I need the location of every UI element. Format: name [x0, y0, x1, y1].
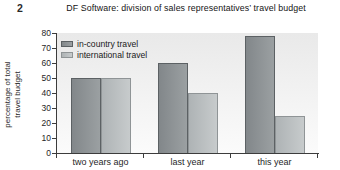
- y-tick-label: 30: [31, 104, 51, 113]
- y-tick: [52, 78, 56, 79]
- y-tick-label: 60: [31, 59, 51, 68]
- legend-swatch-in-country: [61, 41, 73, 47]
- category-label: two years ago: [57, 157, 144, 167]
- y-tick: [52, 63, 56, 64]
- y-tick: [52, 108, 56, 109]
- y-tick: [52, 33, 56, 34]
- y-axis: [56, 33, 57, 154]
- worksheet-page: 2 DF Software: division of sales represe…: [0, 0, 340, 170]
- y-tick: [52, 93, 56, 94]
- y-tick-label: 50: [31, 74, 51, 83]
- bar-in-country-travel: [158, 63, 188, 153]
- chart-title: DF Software: division of sales represent…: [34, 3, 338, 13]
- bar-in-country-travel: [71, 78, 101, 153]
- x-axis: [56, 153, 319, 154]
- y-tick-label: 20: [31, 119, 51, 128]
- legend-label-in-country: in-country travel: [77, 40, 138, 48]
- legend-item-in-country: in-country travel: [61, 40, 147, 48]
- y-axis-label: percentage of total travel budget: [3, 35, 24, 155]
- y-tick: [52, 48, 56, 49]
- legend: in-country travel international travel: [61, 40, 147, 62]
- y-tick-label: 70: [31, 44, 51, 53]
- y-tick-label: 10: [31, 134, 51, 143]
- bar-international-travel: [188, 93, 218, 153]
- y-tick: [52, 138, 56, 139]
- y-tick-label: 80: [31, 29, 51, 38]
- bar-international-travel: [275, 116, 305, 154]
- y-tick-label: 0: [31, 149, 51, 158]
- bar-in-country-travel: [245, 36, 275, 153]
- bar-international-travel: [101, 78, 131, 153]
- y-tick: [52, 123, 56, 124]
- y-axis-label-line2: travel budget: [13, 35, 23, 155]
- legend-label-international: international travel: [77, 51, 147, 59]
- legend-swatch-international: [61, 52, 73, 58]
- category-label: this year: [231, 157, 318, 167]
- legend-item-international: international travel: [61, 51, 147, 59]
- category-label: last year: [144, 157, 231, 167]
- y-axis-label-line1: percentage of total: [3, 35, 13, 155]
- y-tick-label: 40: [31, 89, 51, 98]
- question-number: 2: [17, 2, 23, 14]
